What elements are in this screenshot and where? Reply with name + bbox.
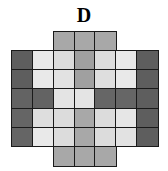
heatmap-cell bbox=[136, 108, 158, 129]
heatmap-cell bbox=[136, 69, 158, 90]
heatmap-cell bbox=[74, 31, 96, 52]
heatmap-cell bbox=[94, 127, 116, 148]
heatmap-cell bbox=[11, 127, 33, 148]
heatmap-cell bbox=[53, 31, 75, 52]
heatmap-cell bbox=[115, 108, 137, 129]
heatmap-cell bbox=[32, 108, 54, 129]
heatmap-cell bbox=[11, 88, 33, 109]
heatmap-cell bbox=[136, 88, 158, 109]
heatmap-cell bbox=[74, 88, 96, 109]
heatmap-cell bbox=[115, 88, 137, 109]
heatmap-cell bbox=[94, 69, 116, 90]
heatmap-cell bbox=[74, 146, 96, 167]
heatmap-cell bbox=[115, 69, 137, 90]
page-title: D bbox=[0, 4, 168, 26]
heatmap-cell bbox=[32, 127, 54, 148]
heatmap-cell bbox=[11, 69, 33, 90]
heatmap-cell bbox=[115, 50, 137, 71]
heatmap-cell bbox=[53, 146, 75, 167]
heatmap-cell bbox=[115, 127, 137, 148]
heatmap-cell bbox=[94, 146, 116, 167]
heatmap-cell bbox=[32, 88, 54, 109]
heatmap-cell bbox=[11, 108, 33, 129]
heatmap-cell bbox=[32, 50, 54, 71]
heatmap-cell bbox=[94, 88, 116, 109]
heatmap-cell bbox=[94, 108, 116, 129]
heatmap-cell bbox=[74, 108, 96, 129]
figure-panel: D bbox=[0, 0, 168, 171]
heatmap-cell bbox=[53, 50, 75, 71]
heatmap-cell bbox=[32, 69, 54, 90]
heatmap-cell bbox=[53, 69, 75, 90]
heatmap-cell bbox=[53, 88, 75, 109]
heatmap-cell bbox=[74, 69, 96, 90]
heatmap-cell bbox=[94, 50, 116, 71]
heatmap-cell bbox=[94, 31, 116, 52]
heatmap-cell bbox=[11, 50, 33, 71]
heatmap-cell bbox=[74, 127, 96, 148]
heatmap-grid bbox=[11, 31, 157, 165]
heatmap-cell bbox=[53, 108, 75, 129]
heatmap-cell bbox=[136, 50, 158, 71]
heatmap-cell bbox=[74, 50, 96, 71]
heatmap-cell bbox=[136, 127, 158, 148]
heatmap-cell bbox=[53, 127, 75, 148]
